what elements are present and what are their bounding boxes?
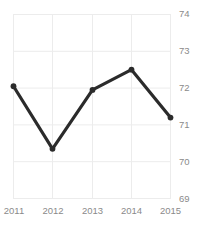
line-chart: Freedom Trend 74 73 72 71 70 69 2011 201… — [0, 0, 207, 227]
x-axis-tick-label: 2014 — [112, 205, 152, 216]
y-axis-tick-label: 69 — [179, 194, 205, 204]
x-axis-tick-label: 2012 — [33, 205, 73, 216]
x-axis-tick-label: 2015 — [151, 205, 191, 216]
data-point-2013 — [90, 87, 96, 93]
y-axis-tick-label: 72 — [179, 83, 205, 93]
x-axis-tick-label: 2011 — [0, 205, 34, 216]
x-axis-tick-label: 2013 — [73, 205, 113, 216]
vertical-gridlines — [14, 14, 171, 199]
data-point-2012 — [50, 146, 56, 152]
y-axis-tick-label: 74 — [179, 9, 205, 19]
y-axis-tick-label: 71 — [179, 120, 205, 130]
y-axis-tick-label: 70 — [179, 157, 205, 167]
plot-area — [0, 0, 207, 227]
data-point-2014 — [129, 67, 135, 73]
y-axis-tick-label: 73 — [179, 46, 205, 56]
data-point-2015 — [168, 115, 174, 121]
data-point-2011 — [11, 83, 17, 89]
